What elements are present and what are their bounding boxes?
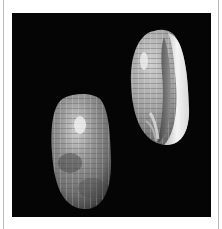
shell-photograph: Two olive sea shells photographed on a b… (12, 13, 211, 217)
shells-illustration (12, 13, 211, 217)
right-border-line (218, 0, 219, 229)
right-shell (122, 23, 197, 153)
left-border-line (3, 0, 4, 229)
left-shell (42, 88, 122, 217)
